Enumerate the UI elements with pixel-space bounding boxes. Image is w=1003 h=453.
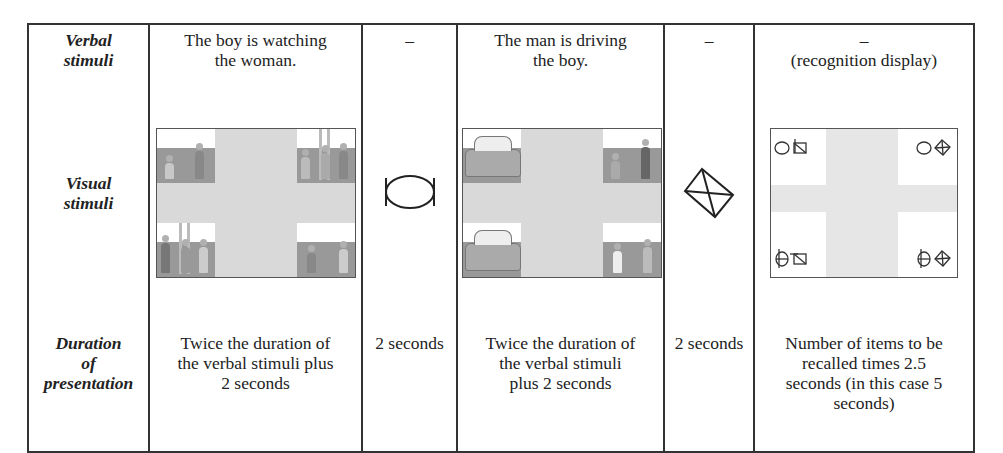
cell-line: plus 2 seconds: [462, 373, 659, 393]
cell-line: the boy.: [462, 50, 659, 70]
duration-cell-4: 2 seconds: [664, 316, 754, 452]
cell-line: seconds): [759, 393, 969, 413]
stimuli-table: Verbal stimuli The boy is watching the w…: [27, 23, 975, 453]
cell-line: the woman.: [154, 50, 357, 70]
symbol-pair-top-left-icon: [774, 137, 814, 157]
picture-quadrant: [463, 223, 521, 277]
row-header-verbal: Verbal stimuli: [28, 24, 149, 98]
duration-cell-1: Twice the duration of the verbal stimuli…: [149, 316, 362, 452]
cell-line: The man is driving: [462, 30, 659, 50]
cell-line: 2 seconds: [669, 333, 749, 353]
cell-line: 2 seconds: [154, 373, 357, 393]
visual-cell-1: [149, 98, 362, 316]
picture-quadrant: [297, 129, 355, 183]
duration-cell-5: Number of items to be recalled times 2.5…: [754, 316, 974, 452]
visual-cell-3: [457, 98, 664, 316]
picture-quadrant: [157, 129, 215, 183]
cell-line: –: [759, 30, 969, 50]
row-header-line: presentation: [33, 373, 144, 393]
picture-quadrant: [297, 223, 355, 277]
symbol-pair-bottom-right-icon: [916, 247, 956, 269]
cell-line: the verbal stimuli plus: [154, 353, 357, 373]
cell-line: seconds (in this case 5: [759, 373, 969, 393]
row-header-duration: Duration of presentation: [28, 316, 149, 452]
ellipse-with-bars-icon: [380, 172, 440, 212]
verbal-cell-1: The boy is watching the woman.: [149, 24, 362, 98]
cell-line: recalled times 2.5: [759, 353, 969, 373]
cell-line: –: [367, 30, 452, 50]
duration-cell-2: 2 seconds: [362, 316, 457, 452]
cell-line: The boy is watching: [154, 30, 357, 50]
symbol-pair-bottom-left-icon: [774, 247, 814, 269]
crossed-diamond-icon: [683, 165, 735, 219]
picture-quadrant: [603, 223, 661, 277]
row-verbal-stimuli: Verbal stimuli The boy is watching the w…: [28, 24, 974, 98]
row-header-line: of: [33, 353, 144, 373]
duration-cell-3: Twice the duration of the verbal stimuli…: [457, 316, 664, 452]
cell-line: –: [669, 30, 749, 50]
cell-line: Twice the duration of: [462, 333, 659, 353]
symbol-pairs-image: [770, 128, 958, 278]
row-header-line: Duration: [33, 333, 144, 353]
picture-quadrant: [157, 223, 215, 277]
verbal-cell-2: –: [362, 24, 457, 98]
row-header-line: Verbal: [33, 30, 144, 50]
row-header-line: stimuli: [33, 193, 144, 213]
scene-watching-image: [156, 128, 356, 278]
symbol-pair-top-right-icon: [916, 137, 956, 157]
cell-line: the verbal stimuli: [462, 353, 659, 373]
row-header-line: Visual: [33, 173, 144, 193]
verbal-cell-3: The man is driving the boy.: [457, 24, 664, 98]
cell-line: Twice the duration of: [154, 333, 357, 353]
row-visual-stimuli: Visual stimuli: [28, 98, 974, 316]
cell-line: (recognition display): [759, 50, 969, 70]
cell-line: 2 seconds: [367, 333, 452, 353]
picture-quadrant: [463, 129, 521, 183]
row-header-line: stimuli: [33, 50, 144, 70]
visual-cell-2: [362, 98, 457, 316]
verbal-cell-4: –: [664, 24, 754, 98]
visual-cell-5: [754, 98, 974, 316]
scene-driving-image: [462, 128, 662, 278]
picture-quadrant: [603, 129, 661, 183]
row-duration: Duration of presentation Twice the durat…: [28, 316, 974, 452]
cell-line: Number of items to be: [759, 333, 969, 353]
row-header-visual: Visual stimuli: [28, 98, 149, 316]
verbal-cell-5: – (recognition display): [754, 24, 974, 98]
visual-cell-4: [664, 98, 754, 316]
